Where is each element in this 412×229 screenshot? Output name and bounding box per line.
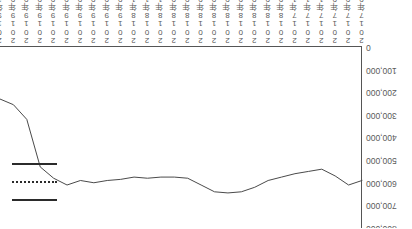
category-axis-tick-label: 2019年10月 [0, 0, 4, 45]
category-axis-tick-label: 2017年08月 [345, 0, 353, 45]
value-axis-tick-label: 600,000 [366, 178, 397, 187]
category-axis-tick-label: 2018年06月 [211, 0, 219, 45]
category-axis-tick-label: 2019年01月 [117, 0, 125, 45]
category-axis-tick-label: 2019年07月 [36, 0, 44, 45]
value-axis-tick-label: 500,000 [366, 156, 397, 165]
category-axis-tick-label: 2017年10月 [318, 0, 326, 45]
value-axis-tick-label: 300,000 [366, 110, 397, 119]
category-axis-tick-label: 2018年03月 [251, 0, 259, 45]
legend-swatch-solid [12, 199, 57, 201]
chart-legend [2, 154, 57, 206]
chart-figure: 0100,000200,000300,000400,000500,000600,… [0, 0, 412, 228]
category-axis-tick-label: 2019年08月 [23, 0, 31, 45]
category-axis-tick-label: 2017年12月 [291, 0, 299, 45]
value-axis-labels: 0100,000200,000300,000400,000500,000600,… [366, 47, 412, 228]
value-axis-tick-label: 200,000 [366, 88, 397, 97]
value-axis-tick-label: 700,000 [366, 201, 397, 210]
category-axis-tick-label: 2019年04月 [76, 0, 84, 45]
category-axis-tick-label: 2018年07月 [197, 0, 205, 45]
chart-canvas: 0100,000200,000300,000400,000500,000600,… [0, 0, 412, 228]
legend-item[interactable] [2, 158, 57, 170]
category-axis-tick-label: 2019年03月 [90, 0, 98, 45]
category-axis-tick-label: 2018年12月 [130, 0, 138, 45]
value-axis-tick-label: 800,000 [366, 224, 397, 229]
value-axis-tick-label: 0 [366, 43, 371, 52]
category-axis-tick-label: 2018年01月 [278, 0, 286, 45]
category-axis-tick-label: 2018年02月 [264, 0, 272, 45]
category-axis-labels: 2017年07月2017年08月2017年09月2017年10月2017年11月… [0, 0, 362, 45]
category-axis-tick-label: 2018年08月 [184, 0, 192, 45]
category-axis-tick-label: 2019年05月 [63, 0, 71, 45]
category-axis-tick-label: 2017年11月 [304, 0, 312, 45]
legend-swatch-dotted [12, 181, 57, 183]
category-axis-tick-label: 2018年05月 [224, 0, 232, 45]
category-axis-tick-label: 2018年10月 [157, 0, 165, 45]
category-axis-tick-label: 2019年09月 [9, 0, 17, 45]
value-axis-tick-label: 400,000 [366, 133, 397, 142]
category-axis-tick-label: 2018年04月 [237, 0, 245, 45]
value-axis-tick-label: 100,000 [366, 65, 397, 74]
category-axis-tick-label: 2018年11月 [143, 0, 151, 45]
legend-swatch-solid [12, 163, 57, 165]
legend-item[interactable] [2, 176, 57, 188]
category-axis-tick-label: 2017年07月 [358, 0, 366, 45]
category-axis-tick-label: 2018年09月 [170, 0, 178, 45]
legend-item[interactable] [2, 194, 57, 206]
category-axis-tick-label: 2017年09月 [331, 0, 339, 45]
category-axis-tick-label: 2019年02月 [103, 0, 111, 45]
category-axis-tick-label: 2019年06月 [50, 0, 58, 45]
